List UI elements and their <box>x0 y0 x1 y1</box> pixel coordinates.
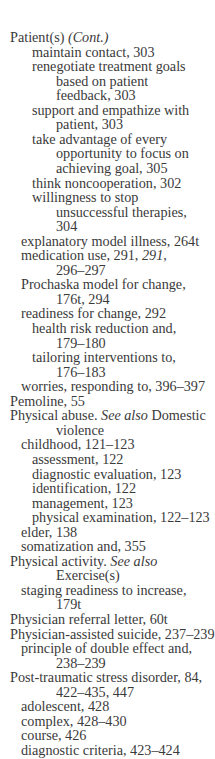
entry-text: Domestic <box>148 407 206 423</box>
index-entry-line: staging readiness to increase, <box>21 582 186 599</box>
index-entry-line: principle of double effect and, <box>21 640 192 657</box>
entry-text: principle of double effect and, <box>21 640 192 656</box>
index-entry-line: Physical abuse. See also Domestic <box>10 407 206 424</box>
entry-text: diagnostic criteria, 423–424 <box>21 742 180 758</box>
italic-text: 291, <box>142 247 167 263</box>
entry-text: staging readiness to increase, <box>21 582 186 598</box>
italic-text: See also <box>101 407 148 423</box>
index-entry-line: diagnostic criteria, 423–424 <box>21 742 180 759</box>
